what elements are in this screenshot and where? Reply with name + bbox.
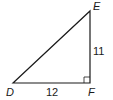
- vertex-label-e: E: [93, 0, 101, 12]
- vertex-label-d: D: [6, 86, 14, 98]
- triangle-def: [13, 11, 90, 83]
- vertex-label-f: F: [88, 86, 96, 98]
- side-label-df: 12: [46, 86, 58, 98]
- right-angle-marker: [84, 77, 90, 83]
- triangle-diagram: E D F 11 12: [0, 0, 113, 100]
- side-label-ef: 11: [93, 45, 104, 57]
